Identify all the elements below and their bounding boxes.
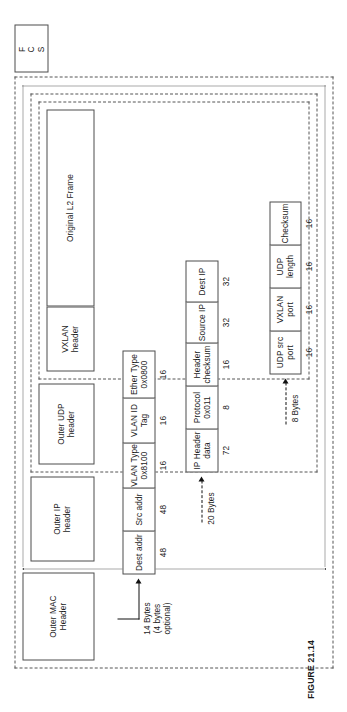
field-label: IP Header data [192, 431, 211, 469]
figure-caption: FIGURE 21.14 [306, 640, 316, 699]
field-box: VXLAN port [269, 287, 301, 331]
ip-size-note: 20 Bytes [206, 480, 216, 536]
field-label: UDP length [275, 245, 294, 287]
field-label: UDP src port [275, 331, 294, 373]
outer-udp-header-box: Outer UDP header [38, 383, 94, 464]
field-box: Protocol 0x011 [185, 385, 218, 429]
field-bits: 16 [303, 244, 313, 288]
outer-mac-header-box: Outer MAC Header [22, 572, 94, 660]
vxlan-header-label: VXLAN header [60, 325, 79, 353]
field-box: Source IP [185, 301, 218, 343]
field-label: Protocol 0x011 [192, 391, 211, 422]
field-label: Src addr [134, 493, 144, 525]
field-box: Header checksum [185, 342, 218, 386]
field-bits: 16 [157, 350, 167, 398]
field-label: VLAN Type 0x8100 [129, 444, 148, 487]
vxlan-encapsulation-diagram: Outer MAC Header Outer IP header Outer U… [0, 0, 347, 712]
mac-connector-line [138, 582, 139, 619]
udp-connector-arrow [282, 378, 288, 383]
original-l2-frame-box: Original L2 Frame [46, 109, 94, 306]
field-label: Header checksum [192, 345, 211, 383]
ip-connector-arrow [198, 476, 204, 481]
udp-size-note: 8 Bytes [290, 380, 300, 436]
field-bits: 32 [220, 301, 230, 343]
field-bits: 8 [220, 385, 230, 429]
field-bits: 16 [303, 330, 313, 374]
field-label: VXLAN port [275, 288, 294, 330]
field-box: Dest addr [122, 530, 155, 574]
field-box: Ether Type 0x0800 [122, 350, 155, 398]
field-bits: 32 [220, 260, 230, 302]
ip-connector-line [201, 480, 202, 522]
field-label: Checksum [280, 203, 290, 243]
outer-ip-header-box: Outer IP header [30, 476, 94, 561]
fcs-box: F C S [14, 24, 48, 72]
mac-size-note: 14 Bytes (4 bytes optional) [142, 590, 172, 646]
field-box: Src addr [122, 487, 155, 531]
field-bits: 16 [157, 397, 167, 443]
outer-mac-header-label: Outer MAC Header [48, 595, 67, 637]
field-label: Source IP [197, 303, 207, 340]
field-label: VLAN ID Tag [129, 398, 148, 442]
original-l2-frame-label: Original L2 Frame [65, 173, 75, 241]
field-box: Dest IP [185, 260, 218, 302]
field-box: VLAN Type 0x8100 [122, 442, 155, 488]
udp-connector-line [285, 382, 286, 424]
field-bits: 16 [220, 342, 230, 386]
field-bits: 72 [220, 428, 230, 472]
field-label: Dest IP [197, 267, 207, 295]
mac-connector-arrow [135, 578, 141, 583]
field-box: IP Header data [185, 428, 218, 472]
field-bits: 16 [303, 287, 313, 331]
vxlan-header-box: VXLAN header [46, 306, 94, 371]
field-bits: 48 [157, 487, 167, 531]
field-box: UDP src port [269, 330, 301, 374]
field-box: Checksum [269, 201, 301, 245]
fcs-label: F C S [17, 44, 46, 52]
field-bits: 16 [303, 201, 313, 245]
outer-ip-header-label: Outer IP header [52, 503, 71, 535]
field-label: Dest addr [134, 534, 144, 571]
field-bits: 48 [157, 530, 167, 574]
field-box: UDP length [269, 244, 301, 288]
outer-udp-header-label: Outer UDP header [56, 403, 75, 444]
field-box: VLAN ID Tag [122, 397, 155, 443]
mac-bracket [117, 618, 139, 619]
field-label: Ether Type 0x0800 [129, 354, 148, 395]
field-bits: 16 [157, 442, 167, 488]
